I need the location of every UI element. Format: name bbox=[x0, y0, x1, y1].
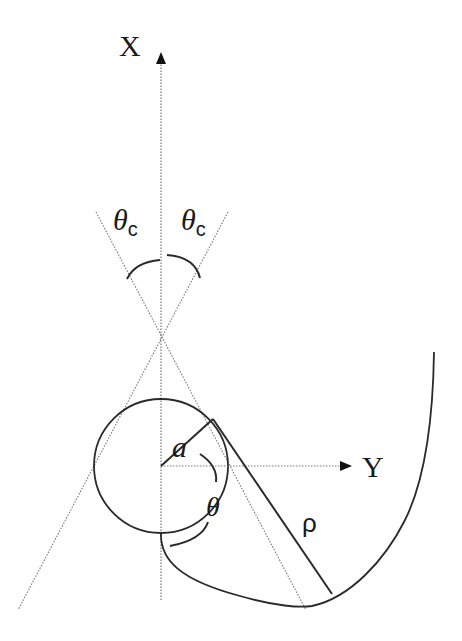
radius-label: a bbox=[172, 430, 187, 463]
x-axis bbox=[156, 52, 166, 600]
cone-angle-arc-left bbox=[127, 260, 160, 279]
x-axis-label: X bbox=[119, 29, 141, 62]
rho-line bbox=[213, 419, 332, 594]
cone-angle-arc-right bbox=[167, 255, 200, 278]
cone-line-left bbox=[96, 212, 306, 610]
diagram-canvas: X θc θc Y a θ ρ bbox=[0, 0, 462, 641]
theta-label: θ bbox=[206, 491, 220, 522]
involute-curve bbox=[161, 352, 434, 607]
y-axis bbox=[161, 461, 352, 471]
cone-lines bbox=[18, 212, 306, 610]
cone-angle-arcs bbox=[127, 255, 200, 279]
y-axis-arrow-icon bbox=[340, 461, 352, 471]
cone-angle-left-label: θc bbox=[113, 203, 138, 240]
theta-arc-upper bbox=[200, 454, 216, 482]
cone-angle-right-label: θc bbox=[181, 203, 206, 240]
x-axis-arrow-icon bbox=[156, 52, 166, 64]
theta-arc-lower bbox=[170, 522, 208, 546]
rho-label: ρ bbox=[302, 508, 317, 538]
y-axis-label: Y bbox=[362, 450, 384, 483]
